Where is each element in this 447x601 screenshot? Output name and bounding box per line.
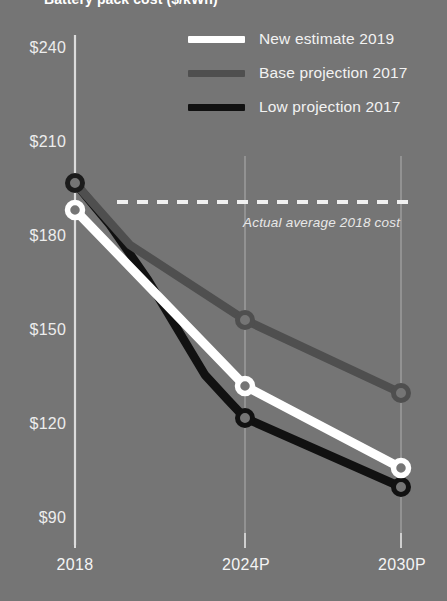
y-axis-tick-label: $180 xyxy=(30,227,66,245)
legend-item-label: Base projection 2017 xyxy=(259,64,408,82)
data-point-base-projection-2024p xyxy=(238,313,253,328)
data-point-base-projection-2030p xyxy=(394,386,409,401)
data-point-low-projection-2024p xyxy=(238,411,253,426)
data-point-low-projection-2018 xyxy=(68,176,83,191)
chart-legend: New estimate 2019 Base projection 2017 L… xyxy=(188,30,408,116)
legend-item-label: Low projection 2017 xyxy=(259,98,401,116)
legend-swatch-icon xyxy=(188,36,245,43)
legend-item-low-projection-2017: Low projection 2017 xyxy=(188,98,408,116)
y-axis-tick-label: $240 xyxy=(30,39,66,57)
chart-container: Battery pack cost ($/kWh) xyxy=(0,0,447,601)
data-point-low-projection-2030p xyxy=(394,480,409,495)
data-point-new-estimate-2030p xyxy=(394,461,409,476)
legend-item-base-projection-2017: Base projection 2017 xyxy=(188,64,408,82)
legend-item-new-estimate-2019: New estimate 2019 xyxy=(188,30,408,48)
x-axis-tick-label: 2018 xyxy=(57,556,94,574)
x-axis-tick-label: 2030P xyxy=(378,556,426,574)
y-axis-tick-label: $120 xyxy=(30,415,66,433)
data-point-new-estimate-2018 xyxy=(68,203,83,218)
legend-swatch-icon xyxy=(188,104,245,111)
data-point-new-estimate-2024p xyxy=(238,379,253,394)
y-axis-tick-label: $210 xyxy=(30,133,66,151)
y-axis-tick-label: $150 xyxy=(30,321,66,339)
legend-item-label: New estimate 2019 xyxy=(259,30,394,48)
legend-swatch-icon xyxy=(188,70,245,77)
y-axis-tick-label: $90 xyxy=(39,509,66,527)
x-axis-tick-label: 2024P xyxy=(222,556,270,574)
annotation-actual-average-2018-cost: Actual average 2018 cost xyxy=(243,215,400,230)
